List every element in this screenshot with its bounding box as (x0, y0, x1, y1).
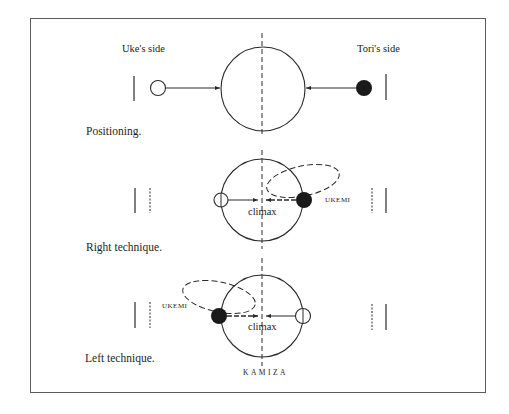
mat-circle (221, 47, 305, 131)
tori-side-label: Tori's side (357, 43, 400, 54)
panel-positioning (134, 33, 386, 136)
tori-marker-solid (211, 308, 227, 324)
caption-positioning: Positioning. (86, 125, 141, 137)
uke-side-label: Uke's side (122, 43, 165, 54)
caption-right-technique: Right technique. (86, 241, 162, 253)
ukemi-label-left: UKEMI (162, 302, 187, 310)
tori-marker-solid (296, 192, 312, 208)
uke-marker-hollow (151, 81, 166, 96)
climax-label-left: climax (248, 321, 277, 332)
tori-marker-solid (356, 80, 372, 96)
climax-label-right: climax (248, 206, 277, 217)
caption-left-technique: Left technique. (85, 352, 155, 364)
judo-diagram: Uke's side Tori's side Positioning. clim… (0, 0, 509, 414)
ukemi-label-right: UKEMI (325, 196, 350, 204)
panel-left-technique (135, 258, 386, 366)
kamiza-label: KAMIZA (243, 368, 288, 377)
